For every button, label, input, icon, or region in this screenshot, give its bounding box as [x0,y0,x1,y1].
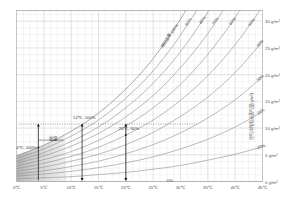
y-tick-label: 0 g/m³ [265,179,277,184]
y-tick-label: 30 g/m³ [265,19,280,24]
x-tick-label: 5℃ [40,185,47,190]
y-tick-label: 15 g/m³ [265,99,280,104]
y-tick-label: 5 g/m³ [265,152,277,157]
y-tick-label: 25 g/m³ [265,45,280,50]
y-tick-label: 10 g/m³ [265,126,280,131]
x-tick-label: 40℃ [230,185,240,190]
x-tick-label: 0℃ [13,185,20,190]
point-4c-100: 4℃, 100% [16,145,36,150]
point-20c-50: 20℃, 50% [119,126,139,131]
x-tick-label: 25℃ [148,185,158,190]
x-tick-label: 35℃ [203,185,213,190]
x-tick-label: 10℃ [66,185,76,190]
y-tick-label: 20 g/m³ [265,72,280,77]
humidify-label: 加湿 [49,135,57,141]
point-12c-100: 12℃, 100% [73,115,95,120]
humidity-temperature-chart: 0℃5℃10℃15℃20℃25℃30℃35℃40℃45℃ 30 g/m³25 g… [0,0,293,204]
x-tick-label: 20℃ [121,185,131,190]
curve-label-0: 0% [167,178,173,183]
x-tick-label: 15℃ [94,185,104,190]
x-tick-label: 45℃ [258,185,268,190]
x-tick-label: 30℃ [176,185,186,190]
y-axis-title: 空气中饱和水蒸气量(g/m³) [248,93,254,140]
